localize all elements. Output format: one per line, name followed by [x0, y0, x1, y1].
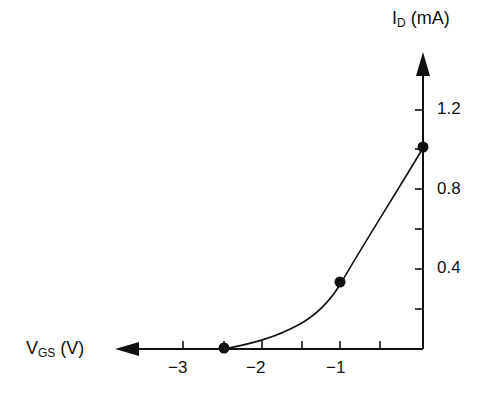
- y-tick-label: 0.8: [437, 179, 461, 199]
- y-axis-title-unit: (mA): [406, 8, 450, 28]
- data-point-pinchoff: [219, 343, 230, 354]
- y-ticks: [415, 110, 423, 309]
- x-tick-label: −2: [246, 358, 265, 378]
- x-tick-label: −1: [326, 358, 345, 378]
- y-axis-title-sub: D: [397, 16, 406, 30]
- x-axis-arrow-icon: [115, 342, 139, 356]
- x-ticks: [183, 341, 380, 349]
- transfer-curve: [224, 148, 423, 349]
- y-axis-arrow-icon: [416, 52, 430, 76]
- data-point-idss: [418, 142, 429, 153]
- y-axis-title: ID (mA): [392, 8, 450, 30]
- y-tick-label: 0.4: [437, 258, 461, 278]
- x-axis-title-sub: GS: [38, 346, 55, 360]
- x-axis-title-main: V: [26, 338, 38, 358]
- x-tick-label: −3: [168, 358, 187, 378]
- y-tick-label: 1.2: [437, 99, 461, 119]
- x-axis-title: VGS (V): [26, 338, 84, 360]
- x-axis-title-unit: (V): [55, 338, 84, 358]
- data-point-minus1: [335, 277, 346, 288]
